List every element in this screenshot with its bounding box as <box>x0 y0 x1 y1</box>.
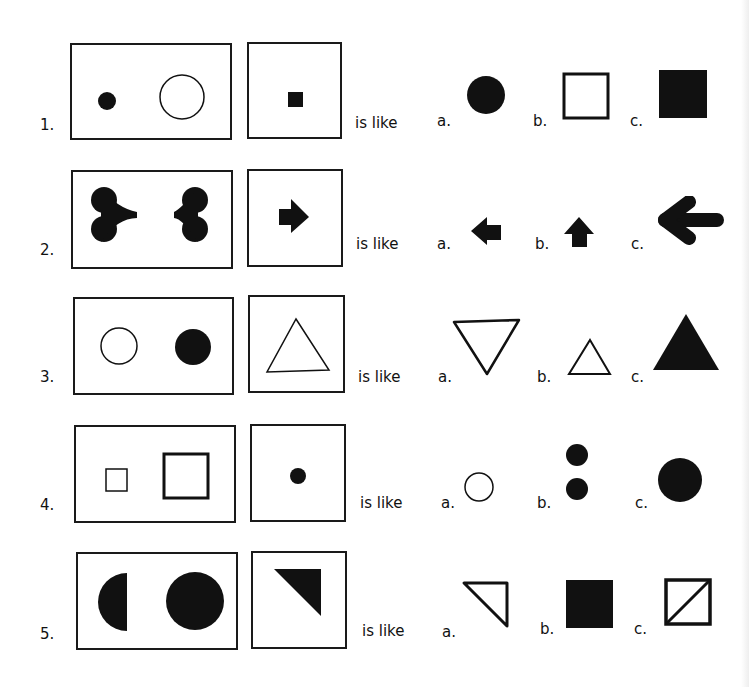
option-c-filled-triangle-icon[interactable] <box>652 313 720 371</box>
is-like-text: is like <box>356 235 398 253</box>
option-a-label[interactable]: a. <box>441 494 455 512</box>
option-b-two-filled-circles-icon[interactable] <box>565 443 589 503</box>
question-row-5: 5. is like a. b. c. <box>0 0 749 130</box>
option-a-small-left-arrow-icon[interactable] <box>469 216 503 246</box>
question-number: 5. <box>40 625 54 643</box>
option-a-label[interactable]: a. <box>438 368 452 386</box>
right-arrow-icon <box>249 171 341 265</box>
option-c-large-left-arrow-icon[interactable] <box>655 196 749 248</box>
is-like-text: is like <box>360 494 402 512</box>
option-c-label[interactable]: c. <box>635 494 648 512</box>
given-box <box>247 169 343 267</box>
option-a-label[interactable]: a. <box>442 623 456 641</box>
option-a-inverted-triangle-icon[interactable] <box>452 318 522 378</box>
pair-box <box>71 170 233 269</box>
option-b-label[interactable]: b. <box>537 368 551 386</box>
question-number: 4. <box>40 496 54 514</box>
option-c-label[interactable]: c. <box>634 620 647 638</box>
outline-triangle-icon <box>250 297 343 391</box>
option-a-outline-right-triangle-icon[interactable] <box>461 580 511 630</box>
heart-shapes-pair-icon <box>73 172 231 267</box>
option-a-label[interactable]: a. <box>437 235 451 253</box>
option-c-large-filled-circle-icon[interactable] <box>657 457 703 503</box>
option-b-label[interactable]: b. <box>537 494 551 512</box>
option-b-label[interactable]: b. <box>540 620 554 638</box>
question-number: 2. <box>40 241 54 259</box>
is-like-text: is like <box>358 368 400 386</box>
is-like-text: is like <box>362 622 404 640</box>
option-b-small-triangle-icon[interactable] <box>567 337 613 377</box>
option-b-filled-square-icon[interactable] <box>566 580 614 629</box>
given-box <box>251 551 347 649</box>
pair-box <box>73 297 234 395</box>
option-b-label[interactable]: b. <box>535 235 549 253</box>
pair-box <box>74 425 236 523</box>
outline-circle-and-filled-circle-icon <box>75 299 232 393</box>
pair-box <box>76 552 238 650</box>
option-c-label[interactable]: c. <box>631 368 644 386</box>
question-number: 3. <box>40 368 54 386</box>
given-box <box>248 295 345 393</box>
option-a-small-outline-circle-icon[interactable] <box>463 471 495 503</box>
option-b-small-up-arrow-icon[interactable] <box>563 216 595 248</box>
given-box <box>250 424 346 522</box>
option-c-label[interactable]: c. <box>631 235 644 253</box>
small-filled-circle-icon <box>252 426 344 520</box>
small-square-and-large-square-icon <box>76 427 234 521</box>
half-circle-and-filled-circle-icon <box>78 554 236 648</box>
filled-right-triangle-icon <box>253 553 345 647</box>
option-c-square-with-diagonal-icon[interactable] <box>664 578 712 626</box>
